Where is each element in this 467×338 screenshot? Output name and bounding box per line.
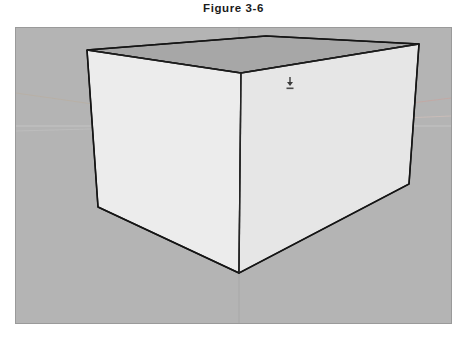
box-model[interactable]	[87, 36, 419, 273]
figure-caption: Figure 3-6	[0, 2, 467, 14]
viewport-scene	[16, 28, 451, 323]
box-right-face[interactable]	[239, 44, 419, 273]
figure-container: Figure 3-6	[0, 0, 467, 338]
box-left-face[interactable]	[87, 50, 241, 273]
modeling-viewport[interactable]	[15, 27, 452, 324]
